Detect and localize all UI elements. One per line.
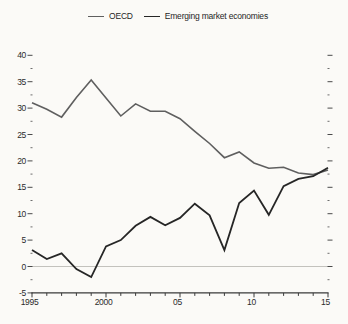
x-tick-label: 15	[321, 297, 330, 307]
legend-label-emerging: Emerging market economies	[165, 11, 268, 21]
x-tick-label: 2000	[95, 297, 113, 307]
x-tick-label: 10	[247, 297, 256, 307]
chart: OECD Emerging market economies 403530252…	[0, 0, 348, 324]
y-tick-label: -5	[19, 288, 27, 298]
oecd-line	[32, 80, 328, 175]
x-tick-label: 1995	[21, 297, 39, 307]
y-tick-label: 25	[17, 130, 26, 140]
y-tick-label: 35	[17, 77, 26, 87]
y-tick-label: 40	[17, 50, 26, 60]
y-tick-label: 15	[17, 182, 26, 192]
legend-item-oecd: OECD	[88, 11, 133, 21]
y-tick-label: 5	[22, 235, 27, 245]
emerging-markets-line	[32, 168, 328, 277]
plot-svg: 4035302520151050-519952000051015	[0, 0, 348, 324]
legend-item-emerging: Emerging market economies	[144, 11, 268, 21]
legend-label-oecd: OECD	[109, 11, 133, 21]
emerging-line-swatch-icon	[144, 16, 160, 17]
y-tick-label: 0	[22, 262, 27, 272]
legend: OECD Emerging market economies	[88, 11, 268, 21]
x-tick-label: 05	[173, 297, 182, 307]
y-tick-label: 20	[17, 156, 26, 166]
y-tick-label: 10	[17, 209, 26, 219]
oecd-line-swatch-icon	[88, 16, 104, 17]
y-tick-label: 30	[17, 103, 26, 113]
